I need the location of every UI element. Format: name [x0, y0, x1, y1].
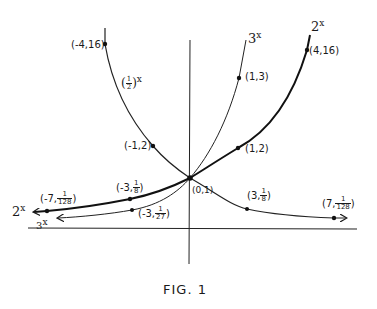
label-neg7-128th: (-7,1128): [40, 191, 76, 206]
label-3-eighth: (3,18): [247, 188, 271, 203]
label-1-3: (1,3): [245, 72, 269, 82]
point-3-eighth: [245, 207, 249, 211]
label-neg3-eighth: (-3,18): [116, 180, 143, 195]
label-half-to-x: (12)x: [121, 74, 142, 91]
label-neg4-16: (-4,16): [71, 40, 105, 50]
label-1-2: (1,2): [245, 144, 269, 154]
label-neg3-27th: (-3,127): [138, 206, 170, 221]
x-axis: [28, 228, 357, 229]
label-origin: (0,1): [192, 186, 213, 195]
point-origin: [187, 175, 193, 181]
label-4-16: (4,16): [309, 46, 339, 56]
point-neg3-eighth: [128, 197, 132, 201]
label-2-to-x-left: 2x: [12, 203, 25, 219]
point-1-2: [236, 146, 240, 150]
label-3-to-x-left: 3x: [36, 217, 47, 231]
point-1-3: [237, 76, 241, 80]
label-neg1-2: (-1,2): [124, 141, 151, 151]
label-2-to-x-top: 2x: [311, 18, 324, 34]
point-neg7-128th: [45, 209, 49, 213]
figure-caption: FIG. 1: [163, 282, 207, 297]
curve-2-to-x: [34, 35, 310, 212]
y-axis: [189, 40, 190, 264]
label-3-to-x-top: 3x: [248, 30, 261, 46]
label-7-128th: (7,1128): [322, 196, 355, 211]
point-7-128th: [332, 216, 336, 220]
point-neg3-27th: [130, 208, 134, 212]
point-neg1-2: [151, 144, 155, 148]
curve-3-to-x: [58, 40, 246, 218]
